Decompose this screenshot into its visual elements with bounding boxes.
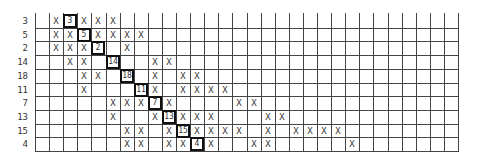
mark-cell: X — [261, 124, 275, 138]
grid-row-line — [35, 110, 459, 111]
mark-cell: X — [63, 55, 77, 69]
mark-cell: X — [148, 110, 162, 124]
grid-column-line — [444, 13, 445, 151]
mark-cell: X — [204, 137, 218, 151]
mark-cell: X — [303, 124, 317, 138]
mark-cell: X — [190, 110, 204, 124]
mark-cell: X — [232, 124, 246, 138]
grid-column-line — [430, 13, 431, 151]
mark-cell: X — [204, 124, 218, 138]
mark-cell: X — [77, 69, 91, 83]
mark-cell: X — [204, 83, 218, 97]
mark-cell: X — [190, 83, 204, 97]
mark-cell: X — [91, 69, 105, 83]
row-label: 14 — [0, 55, 28, 69]
mark-cell: X — [134, 124, 148, 138]
boxed-value-cell: 5 — [77, 28, 91, 42]
row-label: 5 — [0, 28, 28, 42]
mark-cell: X — [218, 83, 232, 97]
grid-column-line — [402, 13, 403, 151]
mark-cell: X — [77, 55, 91, 69]
boxed-value-cell: 2 — [91, 41, 105, 55]
mark-cell: X — [106, 110, 120, 124]
boxed-value-cell: 7 — [148, 96, 162, 110]
mark-cell: X — [176, 110, 190, 124]
row-label: 3 — [0, 14, 28, 28]
row-label: 18 — [0, 69, 28, 83]
mark-cell: X — [261, 137, 275, 151]
mark-cell: X — [218, 124, 232, 138]
grid-row-line — [35, 83, 459, 84]
boxed-value-cell: 11 — [134, 83, 148, 97]
mark-cell: X — [63, 28, 77, 42]
mark-cell: X — [120, 96, 134, 110]
boxed-value-cell: 18 — [120, 69, 134, 83]
grid-column-line — [388, 13, 389, 151]
mark-cell: X — [247, 96, 261, 110]
row-label: 2 — [0, 41, 28, 55]
grid-column-line — [416, 13, 417, 151]
boxed-value-cell: 13 — [162, 110, 176, 124]
mark-cell: X — [148, 69, 162, 83]
grid-row-line — [35, 55, 459, 56]
mark-cell: X — [120, 137, 134, 151]
grid-column-line — [359, 13, 360, 151]
mark-cell: X — [162, 137, 176, 151]
mark-cell: X — [91, 14, 105, 28]
mark-cell: X — [77, 14, 91, 28]
grid-column-line — [35, 13, 36, 151]
mark-cell: X — [106, 96, 120, 110]
grid-column-line — [458, 13, 459, 151]
mark-cell: X — [91, 28, 105, 42]
row-label: 13 — [0, 110, 28, 124]
grid-column-line — [275, 13, 276, 151]
mark-cell: X — [232, 96, 246, 110]
mark-cell: X — [49, 14, 63, 28]
mark-cell: X — [204, 110, 218, 124]
mark-cell: X — [120, 28, 134, 42]
boxed-value-cell: 4 — [190, 137, 204, 151]
mark-cell: X — [162, 96, 176, 110]
mark-cell: X — [77, 83, 91, 97]
row-label: 15 — [0, 124, 28, 138]
mark-cell: X — [190, 124, 204, 138]
grid-column-line — [345, 13, 346, 151]
mark-cell: X — [176, 83, 190, 97]
mark-cell: X — [261, 110, 275, 124]
mark-cell: X — [345, 137, 359, 151]
mark-cell: X — [190, 69, 204, 83]
mark-cell: X — [162, 55, 176, 69]
mark-cell: X — [120, 124, 134, 138]
row-label: 4 — [0, 137, 28, 151]
mark-cell: X — [275, 110, 289, 124]
mark-cell: X — [148, 55, 162, 69]
mark-cell: X — [176, 69, 190, 83]
grid-column-line — [247, 13, 248, 151]
boxed-value-cell: 3 — [63, 14, 77, 28]
incidence-grid: 3XXXX35XXXXXX52XXXX214XXXX1418XXXXX1811X… — [0, 0, 478, 161]
mark-cell: X — [134, 28, 148, 42]
boxed-value-cell: 14 — [106, 55, 120, 69]
mark-cell: X — [162, 124, 176, 138]
mark-cell: X — [63, 41, 77, 55]
mark-cell: X — [49, 41, 63, 55]
mark-cell: X — [106, 28, 120, 42]
mark-cell: X — [120, 41, 134, 55]
mark-cell: X — [77, 41, 91, 55]
mark-cell: X — [49, 28, 63, 42]
mark-cell: X — [317, 124, 331, 138]
mark-cell: X — [247, 137, 261, 151]
boxed-value-cell: 15 — [176, 124, 190, 138]
mark-cell: X — [134, 96, 148, 110]
row-label: 11 — [0, 83, 28, 97]
grid-row-line — [35, 151, 459, 152]
mark-cell: X — [331, 124, 345, 138]
mark-cell: X — [148, 83, 162, 97]
mark-cell: X — [176, 137, 190, 151]
mark-cell: X — [106, 14, 120, 28]
mark-cell: X — [289, 124, 303, 138]
mark-cell: X — [134, 137, 148, 151]
row-label: 7 — [0, 96, 28, 110]
grid-column-line — [373, 13, 374, 151]
grid-row-line — [35, 124, 459, 125]
